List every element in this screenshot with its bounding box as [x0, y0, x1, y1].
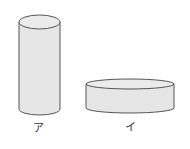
flat-cylinder [86, 79, 174, 113]
cylinders-diagram [0, 0, 190, 149]
label-a: ア [33, 123, 44, 134]
label-i: イ [125, 122, 136, 133]
tall-cylinder [19, 15, 60, 115]
